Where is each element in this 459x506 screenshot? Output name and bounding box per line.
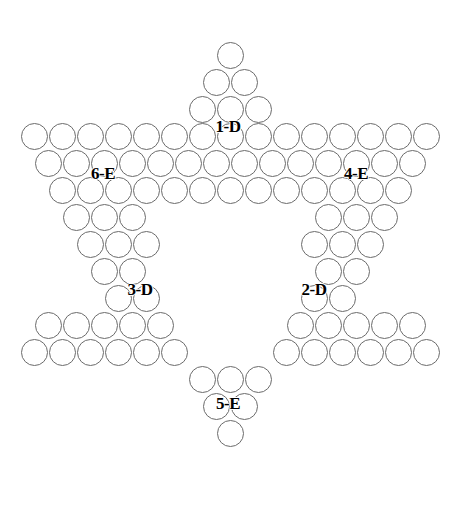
board-hole[interactable] (273, 339, 300, 366)
board-hole[interactable] (91, 312, 118, 339)
board-hole[interactable] (217, 96, 244, 123)
board-hole[interactable] (217, 366, 244, 393)
board-hole[interactable] (91, 204, 118, 231)
board-hole[interactable] (35, 312, 62, 339)
board-hole[interactable] (119, 312, 146, 339)
board-hole[interactable] (287, 312, 314, 339)
board-hole[interactable] (119, 204, 146, 231)
board-hole[interactable] (161, 339, 188, 366)
board-hole[interactable] (343, 150, 370, 177)
board-hole[interactable] (301, 177, 328, 204)
board-hole[interactable] (315, 150, 342, 177)
board-hole[interactable] (21, 123, 48, 150)
board-hole[interactable] (203, 150, 230, 177)
board-hole[interactable] (413, 339, 440, 366)
board-hole[interactable] (161, 123, 188, 150)
board-hole[interactable] (147, 150, 174, 177)
board-hole[interactable] (105, 285, 132, 312)
board-hole[interactable] (77, 177, 104, 204)
board-hole[interactable] (385, 123, 412, 150)
board-hole[interactable] (49, 339, 76, 366)
board-hole[interactable] (371, 150, 398, 177)
board-hole[interactable] (161, 177, 188, 204)
board-hole[interactable] (105, 177, 132, 204)
board-hole[interactable] (301, 123, 328, 150)
board-hole[interactable] (119, 150, 146, 177)
board-hole[interactable] (329, 285, 356, 312)
board-hole[interactable] (399, 312, 426, 339)
board-hole[interactable] (357, 177, 384, 204)
board-hole[interactable] (133, 231, 160, 258)
board-hole[interactable] (203, 69, 230, 96)
board-hole[interactable] (259, 150, 286, 177)
board-hole[interactable] (273, 177, 300, 204)
board-hole[interactable] (245, 366, 272, 393)
board-hole[interactable] (301, 231, 328, 258)
board-hole[interactable] (301, 285, 328, 312)
board-hole[interactable] (49, 123, 76, 150)
board-hole[interactable] (119, 258, 146, 285)
board-hole[interactable] (245, 123, 272, 150)
board-hole[interactable] (245, 177, 272, 204)
board-hole[interactable] (63, 312, 90, 339)
board-hole[interactable] (217, 42, 244, 69)
board-hole[interactable] (105, 339, 132, 366)
board-hole[interactable] (77, 339, 104, 366)
board-hole[interactable] (329, 177, 356, 204)
board-hole[interactable] (133, 339, 160, 366)
board-hole[interactable] (357, 123, 384, 150)
board-hole[interactable] (189, 177, 216, 204)
board-hole[interactable] (147, 312, 174, 339)
board-hole[interactable] (343, 258, 370, 285)
board-hole[interactable] (357, 231, 384, 258)
board-hole[interactable] (329, 339, 356, 366)
board-hole[interactable] (217, 420, 244, 447)
board-hole[interactable] (343, 312, 370, 339)
board-hole[interactable] (343, 204, 370, 231)
board-hole[interactable] (231, 393, 258, 420)
board-hole[interactable] (91, 150, 118, 177)
board-hole[interactable] (399, 150, 426, 177)
board-hole[interactable] (371, 204, 398, 231)
board-hole[interactable] (175, 150, 202, 177)
chinese-checkers-board: 1-D6-E4-E3-D2-D5-E (0, 0, 459, 506)
board-hole[interactable] (217, 123, 244, 150)
board-hole[interactable] (189, 366, 216, 393)
board-hole[interactable] (217, 177, 244, 204)
board-hole[interactable] (49, 177, 76, 204)
board-hole[interactable] (231, 69, 258, 96)
board-hole[interactable] (63, 150, 90, 177)
board-hole[interactable] (371, 312, 398, 339)
board-hole[interactable] (315, 204, 342, 231)
board-hole[interactable] (385, 339, 412, 366)
board-hole[interactable] (385, 177, 412, 204)
board-hole[interactable] (203, 393, 230, 420)
board-hole[interactable] (231, 150, 258, 177)
board-hole[interactable] (21, 339, 48, 366)
board-hole[interactable] (133, 285, 160, 312)
board-hole[interactable] (315, 312, 342, 339)
board-hole[interactable] (273, 123, 300, 150)
board-hole[interactable] (105, 231, 132, 258)
board-hole[interactable] (189, 96, 216, 123)
board-hole[interactable] (245, 96, 272, 123)
board-hole[interactable] (329, 231, 356, 258)
board-hole[interactable] (133, 123, 160, 150)
board-hole[interactable] (77, 231, 104, 258)
board-hole[interactable] (35, 150, 62, 177)
board-hole[interactable] (133, 177, 160, 204)
board-hole[interactable] (413, 123, 440, 150)
board-hole[interactable] (287, 150, 314, 177)
board-hole[interactable] (301, 339, 328, 366)
board-hole[interactable] (315, 258, 342, 285)
board-hole[interactable] (357, 339, 384, 366)
board-hole[interactable] (105, 123, 132, 150)
board-hole[interactable] (329, 123, 356, 150)
board-hole[interactable] (91, 258, 118, 285)
board-hole[interactable] (63, 204, 90, 231)
board-hole[interactable] (77, 123, 104, 150)
board-hole[interactable] (189, 123, 216, 150)
